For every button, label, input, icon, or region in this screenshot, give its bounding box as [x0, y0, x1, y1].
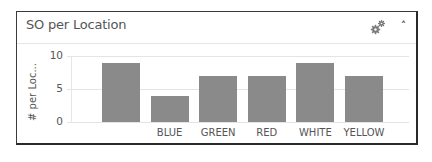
bar[interactable]	[345, 76, 383, 122]
bar[interactable]	[151, 96, 189, 122]
y-axis-title: # per Loc...	[25, 52, 39, 132]
widget-title: SO per Location	[26, 17, 126, 32]
y-tick-label: 10	[43, 49, 63, 61]
y-axis-title-text: # per Loc...	[27, 63, 38, 121]
y-tick-label: 0	[43, 115, 63, 127]
bar[interactable]	[102, 63, 140, 122]
bar[interactable]	[296, 63, 334, 122]
bar[interactable]	[248, 76, 286, 122]
widget-header: SO per Location ˄	[17, 12, 416, 44]
chart-widget: SO per Location ˄	[16, 11, 418, 145]
x-tick-label: GREEN	[193, 127, 243, 138]
chevron-up-icon[interactable]: ˄	[401, 20, 406, 31]
bar[interactable]	[199, 76, 237, 122]
x-tick-label: BLUE	[145, 127, 195, 138]
y-tick-label: 5	[43, 82, 63, 94]
gear-icon[interactable]	[370, 19, 386, 35]
x-tick-label: RED	[242, 127, 292, 138]
gridline	[67, 122, 409, 123]
x-tick-label: WHITE	[290, 127, 340, 138]
x-tick-label: YELLOW	[339, 127, 389, 138]
gridline	[67, 56, 409, 57]
